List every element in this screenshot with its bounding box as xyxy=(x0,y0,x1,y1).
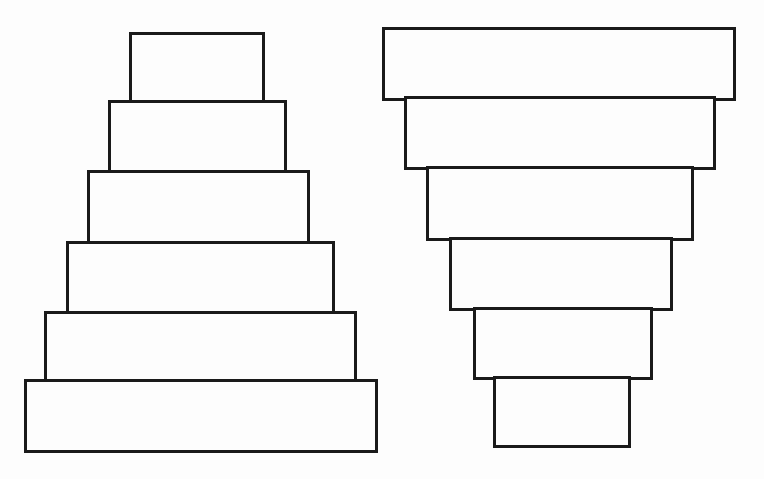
pyramid-block-1 xyxy=(129,32,265,105)
pyramid-block-6 xyxy=(24,379,378,453)
pyramid-block-4 xyxy=(66,241,335,315)
pyramid-block-2 xyxy=(108,100,287,174)
diagram-canvas xyxy=(0,0,764,479)
inverted-pyramid-block-5 xyxy=(473,307,653,380)
inverted-pyramid-block-3 xyxy=(426,166,694,241)
pyramid-block-3 xyxy=(87,170,310,245)
inverted-pyramid-block-1 xyxy=(382,27,736,101)
inverted-pyramid-block-4 xyxy=(449,237,673,311)
inverted-pyramid-block-2 xyxy=(404,96,716,170)
pyramid-block-5 xyxy=(44,311,357,384)
inverted-pyramid-block-6 xyxy=(493,376,631,448)
